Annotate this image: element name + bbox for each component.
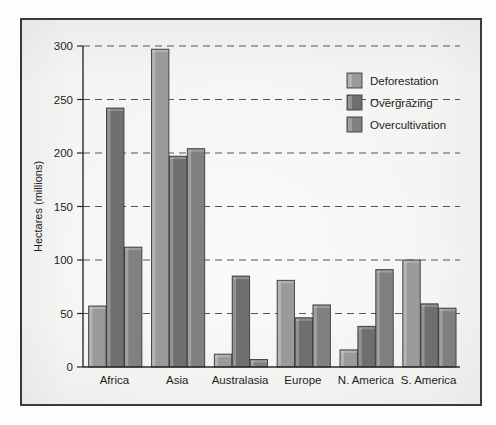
bar-top-bevel xyxy=(233,277,249,279)
legend-label-overgrazing: Overgrazing xyxy=(370,97,433,109)
bar-highlight xyxy=(422,305,425,366)
y-tick-label-150: 150 xyxy=(54,201,73,213)
chart-frame: 050100150200250300 AfricaAsiaAustralasia… xyxy=(20,18,482,406)
bar-highlight xyxy=(377,271,380,366)
legend-swatch-highlight xyxy=(348,96,352,109)
bar-highlight xyxy=(314,306,317,366)
bar-top-bevel xyxy=(125,248,141,250)
bar-top-bevel xyxy=(170,157,186,159)
bar-highlight xyxy=(107,109,110,366)
x-axis-label-s-america: S. America xyxy=(401,374,457,386)
legend-label-overcultivation: Overcultivation xyxy=(370,119,446,131)
bar-highlight xyxy=(152,50,155,366)
y-axis-title-text: Hectares (millions) xyxy=(32,161,44,252)
x-axis-label-australasia: Australasia xyxy=(212,374,269,386)
figure-container: 050100150200250300 AfricaAsiaAustralasia… xyxy=(0,0,496,425)
bar-top-bevel xyxy=(377,271,393,273)
chart-legend: DeforestationOvergrazingOvercultivation xyxy=(347,73,446,132)
bar-top-bevel xyxy=(251,360,267,362)
bar-highlight xyxy=(278,282,281,367)
bar-top-bevel xyxy=(341,351,357,353)
bar-highlight xyxy=(341,351,344,366)
bar-top-bevel xyxy=(314,306,330,308)
legend-label-deforestation: Deforestation xyxy=(370,75,438,87)
bar-top-bevel xyxy=(188,150,204,152)
x-axis-category-labels: AfricaAsiaAustralasiaEuropeN. AmericaS. … xyxy=(100,374,457,386)
bar-top-bevel xyxy=(422,305,438,307)
bar-top-bevel xyxy=(404,261,420,263)
bar-top-bevel xyxy=(439,309,455,311)
bar-highlight xyxy=(439,309,442,366)
bar-highlight xyxy=(359,328,362,367)
y-tick-label-100: 100 xyxy=(54,254,73,266)
x-axis-label-africa: Africa xyxy=(100,374,130,386)
x-axis-label-asia: Asia xyxy=(166,374,189,386)
bar-chart-plot: 050100150200250300 AfricaAsiaAustralasia… xyxy=(22,20,480,404)
y-tick-label-250: 250 xyxy=(54,94,73,106)
y-tick-label-50: 50 xyxy=(60,308,73,320)
y-tick-label-200: 200 xyxy=(54,147,73,159)
bar-highlight xyxy=(89,307,92,366)
x-axis-label-n-america: N. America xyxy=(338,374,395,386)
bar-highlight xyxy=(125,248,128,366)
bar-top-bevel xyxy=(152,50,168,52)
bar-highlight xyxy=(233,277,236,366)
bar-highlight xyxy=(296,319,299,366)
bar-top-bevel xyxy=(107,109,123,111)
bar-highlight xyxy=(188,150,191,366)
bar-top-bevel xyxy=(89,307,105,309)
y-tick-label-300: 300 xyxy=(54,40,73,52)
y-axis-title: Hectares (millions) xyxy=(32,161,44,252)
bar-top-bevel xyxy=(359,327,375,329)
bar-highlight xyxy=(170,157,173,366)
legend-swatch-highlight xyxy=(348,74,352,87)
y-axis-ticks: 050100150200250300 xyxy=(54,40,83,373)
bar-highlight xyxy=(404,261,407,366)
bar-top-bevel xyxy=(278,281,294,283)
bar-top-bevel xyxy=(296,319,312,321)
x-axis-label-europe: Europe xyxy=(284,374,321,386)
legend-swatch-highlight xyxy=(348,118,352,131)
y-tick-label-0: 0 xyxy=(67,361,73,373)
bar-top-bevel xyxy=(215,355,231,357)
